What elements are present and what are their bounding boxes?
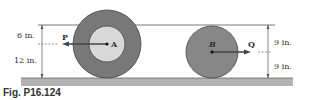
figure-diagram: A P 6 in. 12 in. B Q 9 in. 9 in. bbox=[0, 0, 309, 100]
label-a: A bbox=[110, 39, 118, 49]
dim-9in-top: 9 in. bbox=[274, 38, 292, 47]
label-b: B bbox=[208, 39, 216, 49]
figure-caption: Fig. P16.124 bbox=[3, 87, 61, 98]
dim-6in: 6 in. bbox=[17, 31, 35, 40]
label-p: P bbox=[62, 32, 68, 42]
label-q: Q bbox=[248, 39, 255, 49]
dim-9in-bottom: 9 in. bbox=[274, 62, 292, 71]
point-a bbox=[105, 42, 108, 45]
dim-12in: 12 in. bbox=[14, 56, 37, 65]
point-b bbox=[210, 50, 213, 53]
ground bbox=[21, 78, 293, 86]
